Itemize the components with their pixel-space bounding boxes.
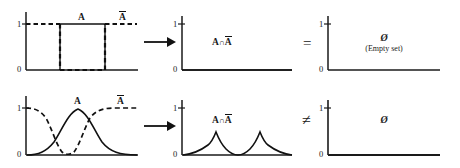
y-tick-label-one: 1 [319,20,323,29]
fuzzy-set-a-label: A [74,97,81,107]
empty-set-symbol: Ø [354,33,414,43]
crisp-membership-plot [0,0,150,84]
y-tick-label-zero: 0 [319,65,323,74]
set-a-complement-label-text: A [119,11,126,22]
set-a-complement-label: A [119,11,126,22]
set-a-label: A [78,13,85,23]
expression-operand-a: A [212,115,219,125]
intersection-expression: A∩A [212,36,232,47]
fuzzy-set-a-complement-label: A [117,95,124,106]
fuzzy-complement-curve [26,108,137,154]
panel-crisp-membership: 1 0 A A [0,0,150,84]
panel-crisp-intersection: 1 0 A∩A [150,0,300,84]
y-tick-label-zero: 0 [319,150,323,159]
panel-crisp-result: 1 0 Ø (Empty set) [300,0,460,84]
y-tick-label-one: 1 [319,104,323,113]
empty-set-symbol: Ø [354,115,414,125]
fuzzy-result-plot [300,84,460,168]
expression-operand-a: A [212,37,219,47]
y-tick-label-one: 1 [17,104,21,113]
y-tick-label-one: 1 [17,20,21,29]
panel-fuzzy-intersection: 1 0 A∩A [150,84,300,168]
y-tick-label-one: 1 [173,104,177,113]
y-tick-label-zero: 0 [17,65,21,74]
y-tick-label-zero: 0 [17,150,21,159]
y-tick-label-zero: 0 [173,150,177,159]
y-tick-label-one: 1 [173,20,177,29]
fuzzy-intersection-expression: A∩A [212,114,232,125]
figure-canvas: 1 0 A A 1 0 A∩A = 1 [0,0,460,168]
expression-operand-b: A [225,36,232,47]
panel-fuzzy-membership: 1 0 A A [0,84,150,168]
panel-fuzzy-result: 1 0 Ø [300,84,460,168]
fuzzy-set-a-complement-label-text: A [117,95,124,106]
fuzzy-intersection-curve [183,132,292,155]
expression-operand-b: A [225,114,232,125]
empty-set-caption: (Empty set) [344,45,424,53]
y-tick-label-zero: 0 [173,65,177,74]
